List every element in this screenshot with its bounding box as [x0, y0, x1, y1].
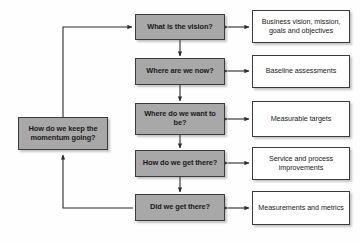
node-output-5-label: Measurements and metrics [255, 204, 346, 212]
node-output-3-label: Measurable targets [268, 115, 335, 123]
node-feedback-momentum-label: How do we keep the momentum going? [19, 125, 107, 142]
node-step-5[interactable]: Did we get there? [135, 194, 225, 221]
node-step-1[interactable]: What is the vision? [135, 14, 225, 40]
node-output-4[interactable]: Service and process improvements [252, 147, 350, 180]
node-output-2[interactable]: Baseline assessments [252, 55, 350, 88]
node-output-4-label: Service and process improvements [253, 155, 349, 172]
node-step-3[interactable]: Where do we want to be? [135, 103, 225, 135]
node-step-2-label: Where are we now? [143, 67, 216, 76]
node-output-2-label: Baseline assessments [263, 67, 340, 75]
node-output-1-label: Business vision, mission, goals and obje… [253, 18, 349, 35]
node-step-2[interactable]: Where are we now? [135, 58, 225, 85]
node-step-5-label: Did we get there? [147, 203, 213, 212]
node-output-1[interactable]: Business vision, mission, goals and obje… [252, 10, 350, 43]
node-step-3-label: Where do we want to be? [136, 110, 224, 127]
connector-feedback-step1 [63, 27, 132, 117]
node-step-1-label: What is the vision? [144, 23, 215, 32]
flowchart-canvas: How do we keep the momentum going? What … [0, 0, 360, 245]
node-feedback-momentum[interactable]: How do we keep the momentum going? [18, 117, 108, 150]
node-output-5[interactable]: Measurements and metrics [252, 191, 350, 225]
node-output-3[interactable]: Measurable targets [252, 101, 350, 137]
node-step-4-label: How do we get there? [140, 159, 220, 168]
node-step-4[interactable]: How do we get there? [135, 150, 225, 177]
connector-step5-feedback [63, 155, 133, 208]
